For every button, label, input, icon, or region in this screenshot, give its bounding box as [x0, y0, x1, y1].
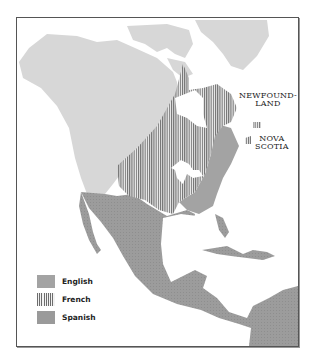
- greenland-region: [195, 20, 269, 70]
- spanish-swatch-icon: [37, 311, 55, 324]
- map-frame: NEWFOUND- LAND NOVA SCOTIA English Frenc…: [16, 17, 299, 347]
- legend-item-spanish: Spanish: [37, 309, 96, 326]
- legend-item-french: French: [37, 291, 96, 308]
- legend-item-english: English: [37, 273, 96, 290]
- map-legend: English French Spanish: [37, 273, 96, 327]
- french-swatch-icon: [37, 293, 55, 306]
- gulf-of-mexico: [161, 214, 207, 264]
- newfoundland-label: NEWFOUND- LAND: [239, 92, 297, 108]
- english-swatch-icon: [37, 275, 55, 288]
- nova-scotia-label: NOVA SCOTIA: [255, 135, 289, 151]
